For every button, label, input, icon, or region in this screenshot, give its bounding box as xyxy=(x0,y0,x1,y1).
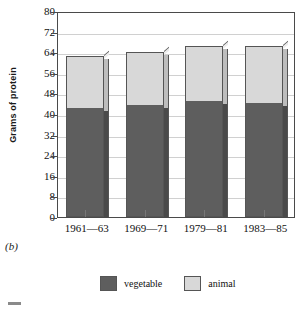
bar-segment-animal xyxy=(127,53,163,107)
y-axis-tick-label: 32 xyxy=(15,129,55,141)
legend-swatch-vegetable xyxy=(100,276,117,291)
bar-segment-vegetable xyxy=(186,101,222,216)
figure-panel-b: Grams of protein 80726456484032241680 19… xyxy=(0,0,305,311)
legend-item-vegetable[interactable]: vegetable xyxy=(100,276,162,291)
y-axis-tick-label: 48 xyxy=(15,87,55,99)
bar-segment-vegetable xyxy=(127,105,163,216)
y-axis-tick-label: 80 xyxy=(15,5,55,17)
x-axis-tick-mark xyxy=(85,210,86,217)
bar-top-face xyxy=(223,41,228,49)
chart-legend: vegetableanimal xyxy=(100,276,236,291)
bar-segment-vegetable xyxy=(246,103,282,216)
bar-segment-animal xyxy=(67,57,103,110)
bar-segment-vegetable xyxy=(67,108,103,216)
legend-item-animal[interactable]: animal xyxy=(184,276,235,291)
x-axis-tick-label: 1983—85 xyxy=(220,222,305,234)
y-axis-tick-mark xyxy=(51,218,57,219)
x-axis-tick-mark xyxy=(204,210,205,217)
bar-top-face xyxy=(104,51,109,59)
bar-2-front xyxy=(126,52,164,217)
bottom-rule-mark xyxy=(8,302,21,305)
panel-letter: (b) xyxy=(5,240,18,252)
bar-side-face xyxy=(223,49,228,217)
y-axis-title: Grams of protein xyxy=(8,45,18,165)
x-axis-tick-mark xyxy=(264,210,265,217)
y-axis-tick-label: 72 xyxy=(15,26,55,38)
bar-side-face xyxy=(283,49,288,217)
x-axis-tick-mark xyxy=(145,210,146,217)
bar-segment-animal xyxy=(186,47,222,104)
y-axis-tick-label: 16 xyxy=(15,170,55,182)
y-axis-tick-label: 40 xyxy=(15,108,55,120)
y-axis-tick-label: 56 xyxy=(15,67,55,79)
bar-segment-animal xyxy=(246,47,282,105)
y-axis-tick-label: 64 xyxy=(15,46,55,58)
bar-group xyxy=(66,56,109,217)
bar-group xyxy=(185,46,228,217)
bar-side-face xyxy=(164,55,169,217)
bar-side-face-vegetable xyxy=(164,108,168,217)
bar-1-front xyxy=(66,56,104,217)
bar-4-front xyxy=(245,46,283,217)
bar-3-front xyxy=(185,46,223,217)
legend-swatch-animal xyxy=(184,276,201,291)
legend-label: vegetable xyxy=(124,278,162,289)
y-axis-tick-label: 8 xyxy=(15,190,55,202)
bar-side-face-vegetable xyxy=(104,111,108,217)
bar-top-face xyxy=(283,41,288,49)
bar-group xyxy=(126,52,169,217)
bar-side-face xyxy=(104,59,109,217)
bar-side-face-vegetable xyxy=(283,106,287,217)
bar-top-face xyxy=(164,47,169,55)
legend-label: animal xyxy=(208,278,235,289)
bar-side-face-vegetable xyxy=(223,104,227,217)
plot-area xyxy=(57,12,295,218)
y-axis-tick-label: 24 xyxy=(15,149,55,161)
gridline xyxy=(58,34,294,35)
bar-group xyxy=(245,46,288,217)
